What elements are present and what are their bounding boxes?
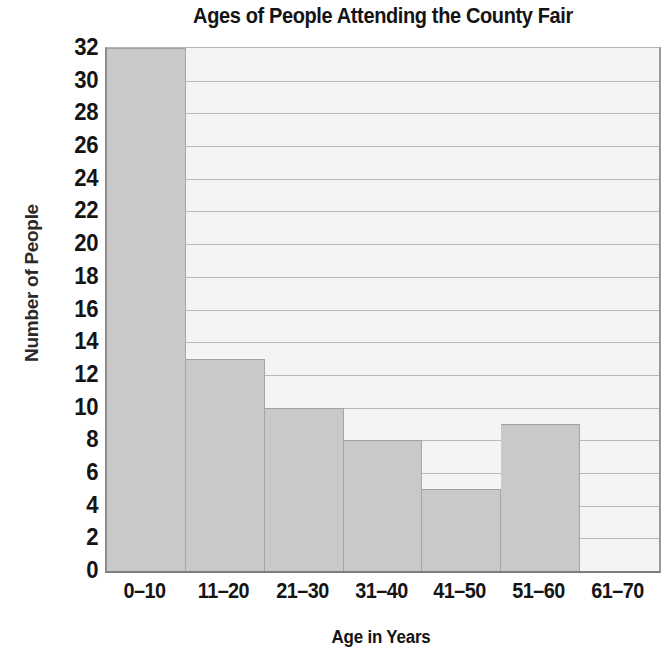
y-tick-label: 10 — [50, 393, 98, 421]
x-tick-label: 31–40 — [346, 578, 417, 604]
chart-title: Ages of People Attending the County Fair — [124, 4, 641, 29]
y-tick-label: 4 — [50, 491, 98, 519]
y-tick-label: 28 — [50, 98, 98, 126]
gridline — [107, 146, 659, 147]
bar-0–10 — [107, 48, 186, 571]
x-tick-label: 51–60 — [503, 578, 574, 604]
y-tick-label: 30 — [50, 66, 98, 94]
bar-51–60 — [501, 424, 580, 571]
gridline — [107, 342, 659, 343]
y-axis-tick-labels: 32302826242220181614121086420 — [28, 47, 98, 570]
y-tick-label: 6 — [50, 458, 98, 486]
y-tick-label: 32 — [50, 33, 98, 61]
y-tick-label: 22 — [50, 196, 98, 224]
x-tick-label: 0–10 — [109, 578, 180, 604]
x-tick-label: 11–20 — [188, 578, 259, 604]
x-tick-label: 21–30 — [267, 578, 338, 604]
y-tick-label: 24 — [50, 164, 98, 192]
x-tick-label: 41–50 — [424, 578, 495, 604]
bar-11–20 — [186, 359, 265, 571]
x-tick-label: 61–70 — [582, 578, 653, 604]
gridline — [107, 310, 659, 311]
y-tick-label: 8 — [50, 425, 98, 453]
gridline — [107, 244, 659, 245]
x-axis-tick-labels: 0–1011–2021–3031–4041–5051–6061–70 — [105, 578, 657, 618]
y-tick-label: 18 — [50, 262, 98, 290]
x-axis-label: Age in Years — [122, 627, 641, 648]
y-tick-label: 12 — [50, 360, 98, 388]
histogram-figure: Ages of People Attending the County Fair… — [0, 0, 668, 666]
y-tick-label: 0 — [50, 556, 98, 584]
bar-41–50 — [422, 489, 501, 571]
plot-area — [105, 47, 661, 573]
gridline — [107, 81, 659, 82]
y-tick-label: 14 — [50, 327, 98, 355]
gridline — [107, 211, 659, 212]
gridline — [107, 113, 659, 114]
y-tick-label: 20 — [50, 229, 98, 257]
gridline — [107, 277, 659, 278]
bar-31–40 — [344, 440, 423, 571]
y-tick-label: 2 — [50, 523, 98, 551]
y-tick-label: 26 — [50, 131, 98, 159]
y-tick-label: 16 — [50, 295, 98, 323]
bar-21–30 — [265, 408, 344, 571]
gridline — [107, 179, 659, 180]
